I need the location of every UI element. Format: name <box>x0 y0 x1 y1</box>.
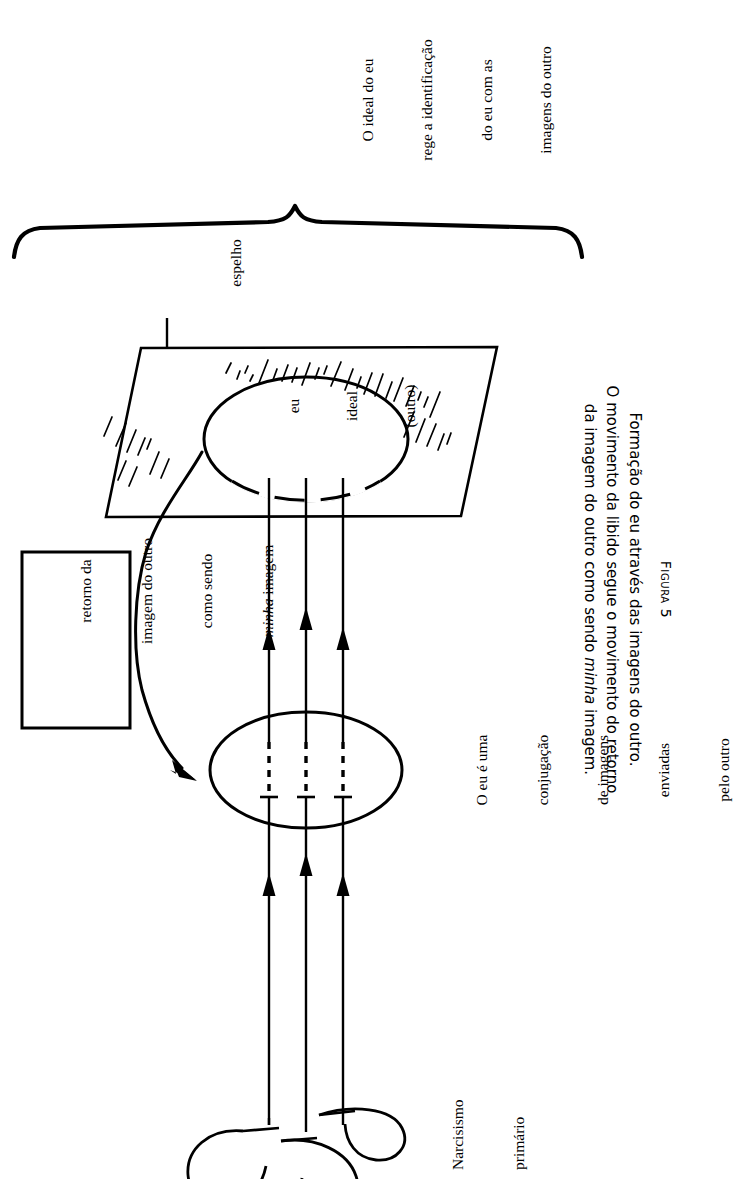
caption-tail: imagem. <box>581 704 599 775</box>
ideal-ego-line-2: ideal <box>342 346 361 466</box>
caption-line-2: O movimento da libido segue o movimento … <box>601 386 624 794</box>
ego-label-line-5: pelo outro <box>714 670 734 870</box>
caption-line-3: da imagem do outro como sendo minha imag… <box>579 404 602 775</box>
figure-caption-block: Figura 5 Formação do eu através das imag… <box>530 0 700 1179</box>
ideal-ego-line-1: eu <box>284 346 303 466</box>
ego-label-line-1: O eu é uma <box>472 670 492 870</box>
curly-brace <box>14 206 582 257</box>
brace-group <box>14 206 582 257</box>
callout-italic-word: minha <box>259 599 276 638</box>
caption-italic-word: minha <box>581 657 599 704</box>
loop-crossbars <box>243 1111 355 1141</box>
narcissism-loops <box>188 1109 405 1179</box>
callout-line-4: minha imagem <box>258 496 278 686</box>
espelho-label: espelho <box>186 208 285 318</box>
callout-line-2: imagem do outro <box>137 496 157 686</box>
caption-line-3-head: da imagem do outro como sendo <box>581 404 599 657</box>
caption-line-1: Formação do eu através das imagens do ou… <box>624 412 647 766</box>
ideal-ego-line-3: (outro) <box>400 346 419 466</box>
brace-caption-line-3: do eu com as <box>477 0 497 200</box>
narcissism-line-1: Narcisismo <box>448 980 468 1170</box>
brace-caption-line-1: O ideal do eu <box>358 0 378 200</box>
espelho-label-text: espelho <box>226 208 246 318</box>
arrow-dashed-inside-ellipse <box>260 742 352 797</box>
ideal-ego-label: eu ideal (outro) <box>246 346 457 466</box>
callout-line-1: retorno da <box>76 496 96 686</box>
callout-box-label: retorno da imagem do outro como sendo mi… <box>36 496 318 686</box>
callout-line-3: como sendo <box>197 496 217 686</box>
callout-tail: imagem <box>259 545 276 599</box>
figure-title: Figura 5 <box>658 561 674 619</box>
brace-caption-line-2: rege a identificação <box>417 0 437 200</box>
narcissism-line-2: primário <box>509 980 529 1170</box>
